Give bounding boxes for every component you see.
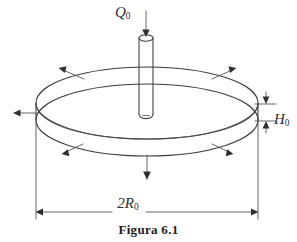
cylinder-bottom-end [139,114,153,119]
label-diameter-subscript: 0 [134,202,139,212]
disk-side-rim-line [36,104,258,139]
label-thickness-symbol: H [274,111,285,127]
figure-caption: Figura 6.1 [0,222,297,238]
figure-container: Q0 H0 2R0 Figura 6.1 [0,0,297,242]
label-diameter-prefix: 2 [117,195,125,211]
bottom-right-flux-head [226,149,234,156]
label-heat-source-subscript: 0 [126,11,131,21]
disk-top-face [36,67,258,139]
thickness-arrow-lower-head [263,121,270,128]
label-heat-source-symbol: Q [115,4,126,20]
label-diameter-symbol: R [125,195,134,211]
label-diameter: 2R0 [117,196,138,212]
top-right-flux-head [228,66,236,73]
disk-bottom-face [36,84,258,156]
label-thickness: H0 [274,112,290,128]
thickness-arrow-upper-head [263,97,270,104]
side-left-flux-head [13,109,21,116]
top-left-flux-head [59,66,67,73]
bottom-center-flux-head [143,172,151,181]
label-thickness-subscript: 0 [285,118,290,128]
bottom-left-flux-head [62,149,70,156]
diameter-arrow-left-head [36,209,44,216]
diameter-arrow-right-head [251,209,259,216]
figure-drawing [0,0,297,242]
heat-inflow-arrow-head [142,30,150,38]
label-heat-source: Q0 [115,5,131,21]
